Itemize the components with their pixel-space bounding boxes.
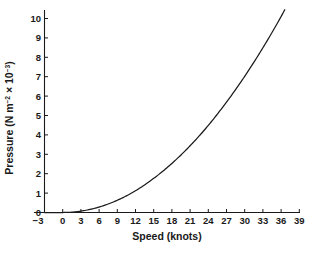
x-tick-label: −3 [33, 215, 44, 226]
y-axis-title-base: Pressure (N m [3, 104, 15, 175]
x-tick-label: 15 [148, 215, 159, 226]
y-tick-label: 4 [36, 129, 42, 140]
x-tick-label: 24 [203, 215, 214, 226]
x-tick-label: 12 [130, 215, 141, 226]
y-tick-label: 10 [30, 13, 41, 24]
y-tick-label: 2 [36, 168, 41, 179]
y-tick-label: 8 [36, 52, 41, 63]
y-axis-ticks: 0 1 2 3 4 5 6 7 8 9 10 [30, 13, 48, 218]
y-tick-label: 3 [36, 149, 41, 160]
x-tick-label: 30 [239, 215, 250, 226]
y-tick-label: 5 [36, 110, 42, 121]
axes [34, 10, 300, 213]
x-tick-label: 6 [96, 215, 101, 226]
chart-figure: Pressure (N m−2 × 10−3) 0 1 2 3 4 5 6 [0, 0, 312, 257]
pressure-curve [45, 10, 285, 213]
x-tick-label: 39 [294, 215, 305, 226]
y-axis-title-tail: ) [3, 61, 15, 65]
x-tick-label: 36 [276, 215, 287, 226]
x-tick-label: 9 [115, 215, 120, 226]
y-axis-title-mid: × 10 [3, 72, 15, 96]
y-tick-label: 6 [36, 91, 41, 102]
y-axis-title: Pressure (N m−2 × 10−3) [3, 61, 15, 174]
x-axis-title: Speed (knots) [132, 230, 201, 242]
x-tick-label: 21 [185, 215, 196, 226]
y-tick-label: 9 [36, 32, 41, 43]
pressure-vs-speed-chart: Pressure (N m−2 × 10−3) 0 1 2 3 4 5 6 [0, 0, 312, 257]
svg-text:Pressure (N m−2 × 10−3): Pressure (N m−2 × 10−3) [3, 61, 15, 174]
y-tick-label: 7 [36, 71, 41, 82]
x-tick-label: 3 [78, 215, 83, 226]
x-tick-label: 18 [167, 215, 178, 226]
y-tick-label: 1 [36, 188, 42, 199]
x-tick-label: 33 [258, 215, 269, 226]
x-tick-label: 0 [60, 215, 65, 226]
x-tick-label: 27 [221, 215, 232, 226]
